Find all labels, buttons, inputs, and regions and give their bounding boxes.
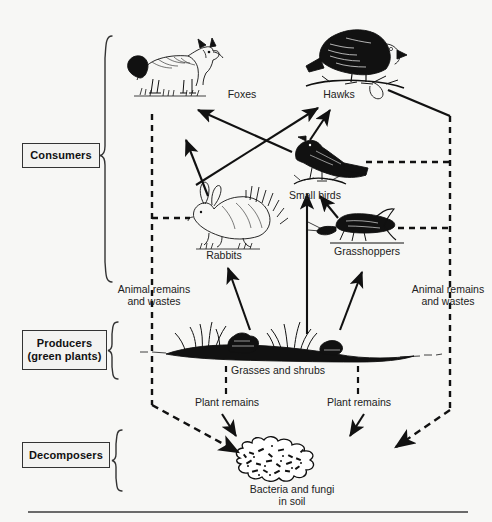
brace-decomposers xyxy=(112,430,122,491)
flow-label-plant-remains-left: Plant remains xyxy=(184,396,270,408)
category-label-decomposers: Decomposers xyxy=(29,449,103,462)
soil-blob-illustration xyxy=(236,437,313,482)
dashed-right-to-bacteria xyxy=(396,410,450,447)
organism-label-foxes: Foxes xyxy=(212,88,272,100)
grass-shrub-illustration xyxy=(140,322,442,362)
category-label-producers-line1: Producers xyxy=(37,337,92,350)
arrow-grasses-to-grasshoppers xyxy=(340,272,362,330)
animal-remains-right-line1: Animal remains xyxy=(400,283,492,295)
arrow-smallbirds-to-hawks xyxy=(310,110,330,140)
category-label-consumers: Consumers xyxy=(30,149,91,162)
bacteria-label-line1: Bacteria and fungi xyxy=(222,483,362,495)
flow-label-animal-remains-right: Animal remains and wastes xyxy=(400,283,492,307)
animal-remains-right-line2: and wastes xyxy=(400,295,492,307)
fox-illustration xyxy=(128,38,223,96)
arrow-smallbirds-to-foxes xyxy=(198,110,292,152)
organism-label-hawks: Hawks xyxy=(308,88,370,100)
grasshopper-illustration xyxy=(308,209,404,243)
bottom-divider xyxy=(28,511,468,513)
dashed-hawk-elbow xyxy=(388,90,450,116)
flow-label-plant-remains-right: Plant remains xyxy=(316,396,402,408)
animal-remains-left-line1: Animal remains xyxy=(106,283,202,295)
organism-label-bacteria: Bacteria and fungi in soil xyxy=(222,483,362,507)
organism-label-rabbits: Rabbits xyxy=(192,249,256,261)
arrow-grasses-to-rabbits xyxy=(228,268,250,330)
category-box-decomposers[interactable]: Decomposers xyxy=(22,442,110,468)
brace-producers xyxy=(108,322,118,379)
dashed-left-to-bacteria xyxy=(152,405,238,452)
brace-consumers xyxy=(100,36,112,282)
category-box-consumers[interactable]: Consumers xyxy=(22,143,100,168)
arrow-rabbits-to-foxes xyxy=(186,140,208,196)
arrow-plant-remains-right xyxy=(350,414,364,436)
bird-illustration xyxy=(294,136,368,184)
flow-label-animal-remains-left: Animal remains and wastes xyxy=(106,283,202,307)
animal-remains-left-line2: and wastes xyxy=(106,295,202,307)
category-label-producers-line2: (green plants) xyxy=(27,350,101,363)
organism-label-grasshoppers: Grasshoppers xyxy=(320,245,414,257)
food-web-diagram: Consumers Producers (green plants) Decom… xyxy=(0,0,492,522)
bacteria-label-line2: in soil xyxy=(222,495,362,507)
arrow-plant-remains-left xyxy=(222,414,236,436)
category-box-producers[interactable]: Producers (green plants) xyxy=(22,330,107,370)
organism-label-grasses: Grasses and shrubs xyxy=(208,364,348,376)
organism-label-small-birds: Small birds xyxy=(272,189,358,201)
